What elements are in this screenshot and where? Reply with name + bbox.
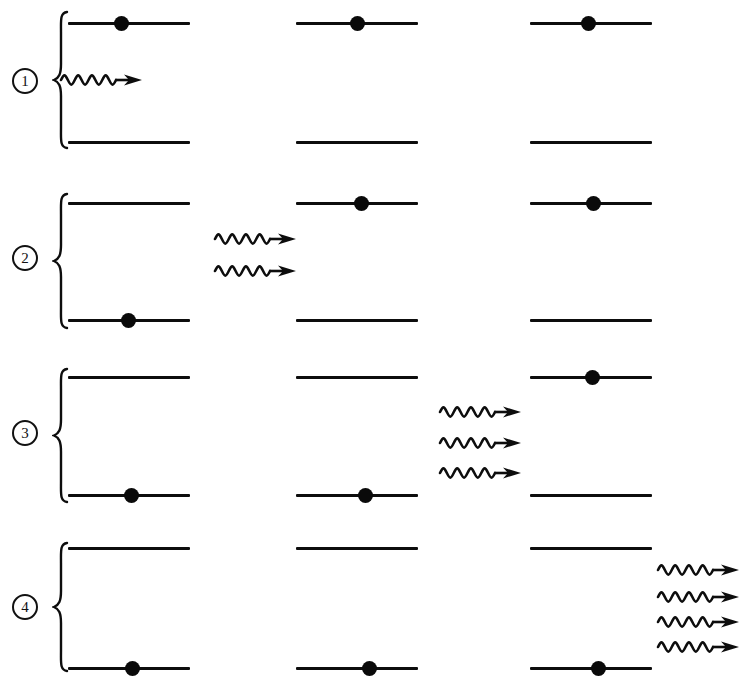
row-4: 4 — [0, 0, 742, 690]
energy-level-upper-row-4-col-1 — [68, 547, 190, 550]
energy-level-upper-row-4-col-3 — [530, 547, 652, 550]
energy-level-lower-row-4-col-2 — [296, 667, 418, 670]
left-brace-row-4 — [52, 541, 70, 677]
electron-dot-row-4-col-3 — [591, 661, 606, 676]
electron-dot-row-4-col-1 — [125, 661, 140, 676]
electron-dot-row-4-col-2 — [362, 661, 377, 676]
photon-wave-arrow-row-4-2 — [655, 585, 741, 613]
diagram-canvas: 1234 — [0, 0, 742, 690]
stage-number-badge-4: 4 — [12, 594, 38, 620]
photon-wave-arrow-row-4-3 — [655, 610, 741, 638]
energy-level-upper-row-4-col-2 — [296, 547, 418, 550]
photon-wave-arrow-row-4-4 — [655, 635, 741, 663]
photon-wave-arrow-row-4-1 — [655, 558, 741, 586]
